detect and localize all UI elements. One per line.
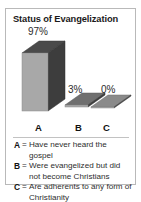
bar-b-front <box>65 105 88 107</box>
legend-separator-c: = <box>22 182 27 192</box>
bar-chart-svg <box>6 26 135 121</box>
legend-text-c: Are adherents to any form of Christianit… <box>29 182 132 192</box>
legend-item-c: C = Are adherents to any form of Christi… <box>14 182 132 192</box>
category-axis: A B C <box>6 122 135 136</box>
legend-separator-b: = <box>22 161 27 172</box>
axis-tick-a: A <box>35 122 42 133</box>
chart-plot-area: 97% 3% 0% <box>6 26 135 121</box>
legend-item-b: B = Were evangelized but did not become … <box>14 161 132 182</box>
legend-separator-a: = <box>22 140 27 151</box>
legend-key-b: B <box>14 161 20 172</box>
legend-item-a: A = Have never heard the gospel <box>14 140 132 161</box>
legend-divider <box>13 137 129 138</box>
bar-c-front <box>91 107 114 108</box>
page-title: Status of Evangelization <box>13 14 118 24</box>
chart-legend: A = Have never heard the gospel B = Were… <box>14 140 132 192</box>
legend-key-c: C <box>14 182 20 192</box>
legend-text-a: Have never heard the gospel <box>29 140 132 161</box>
legend-key-a: A <box>14 140 20 151</box>
data-label-b: 3% <box>68 84 82 95</box>
axis-tick-c: C <box>103 122 110 133</box>
chart-panel: Status of Evangelization <box>5 8 136 185</box>
data-label-a: 97% <box>28 26 48 37</box>
bar-group-a <box>22 41 65 111</box>
bar-a-front <box>22 53 48 111</box>
axis-tick-b: B <box>75 122 82 133</box>
data-label-c: 0% <box>101 84 115 95</box>
bar-a-side <box>48 41 65 111</box>
legend-text-b: Were evangelized but did not become Chri… <box>29 161 132 182</box>
